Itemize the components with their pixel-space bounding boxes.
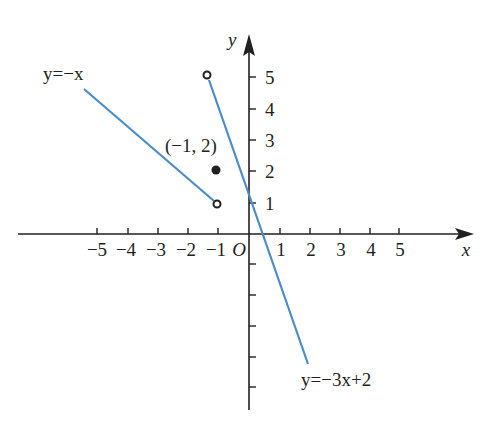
piecewise-function-graph: −5 −4 −3 −2 −1 O 1 2 3 4 5 x 1 2 3 4 — [0, 0, 485, 425]
x-tick-label: 3 — [336, 239, 346, 260]
filled-point-marker — [212, 166, 221, 175]
line-y-equals-neg3x-plus-2 — [209, 80, 308, 364]
point-label: (−1, 2) — [165, 135, 217, 157]
line2-label: y=−3x+2 — [301, 369, 371, 390]
x-tick-label: 5 — [395, 239, 405, 260]
x-tick-label: −5 — [87, 239, 107, 260]
x-tick-label: 2 — [306, 239, 316, 260]
open-endpoint-marker — [204, 72, 211, 79]
x-axis: −5 −4 −3 −2 −1 O 1 2 3 4 5 x — [18, 228, 474, 260]
open-endpoint-marker — [214, 201, 221, 208]
x-tick-label: −1 — [206, 239, 226, 260]
y-axis: 1 2 3 4 5 y — [226, 29, 275, 410]
y-tick-label: 4 — [265, 99, 275, 120]
y-tick-label: 1 — [265, 193, 275, 214]
x-tick-label: −4 — [116, 239, 137, 260]
line1-label: y=−x — [43, 63, 84, 84]
x-tick-label: 1 — [276, 239, 286, 260]
x-axis-label: x — [461, 239, 471, 260]
x-tick-label: −2 — [176, 239, 196, 260]
y-tick-label: 5 — [265, 67, 275, 88]
x-tick-label: 4 — [366, 239, 376, 260]
origin-label: O — [232, 239, 246, 260]
y-tick-label: 3 — [265, 130, 275, 151]
x-tick-label: −3 — [146, 239, 166, 260]
y-axis-label: y — [226, 29, 237, 50]
y-tick-label: 2 — [265, 161, 275, 182]
